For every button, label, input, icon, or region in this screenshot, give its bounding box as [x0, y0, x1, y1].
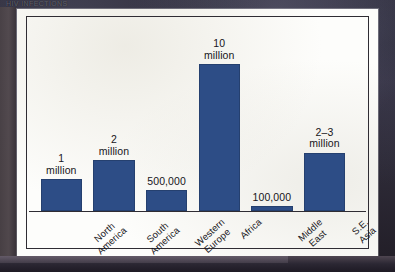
page-bottom-band: [0, 256, 395, 272]
bar-group: 2–3 million: [304, 23, 345, 211]
bar-value-label: 2 million: [99, 134, 129, 157]
x-axis-label: Middle East: [297, 217, 332, 252]
bar-plot-area: 1 million2 million500,00010 million100,0…: [39, 23, 358, 211]
bar-rect: [146, 190, 187, 211]
page-left-spine: [0, 7, 16, 259]
bar-value-label: 10 million: [204, 38, 234, 61]
x-axis-label: S.E. Asia: [350, 217, 378, 245]
bar-value-label: 500,000: [147, 176, 186, 188]
bar-value-label: 100,000: [253, 192, 292, 204]
x-axis-label: Western Europe: [193, 217, 234, 257]
page-caption: HIV INFECTIONS: [6, 0, 186, 8]
x-axis-label: North America: [88, 217, 128, 256]
chart-card: 1 million2 million500,00010 million100,0…: [17, 9, 378, 256]
x-axis-label: South America: [141, 217, 181, 256]
bar-value-label: 1 million: [46, 153, 76, 176]
bar-group: 500,000: [146, 23, 187, 211]
bar-group: 2 million: [93, 23, 134, 211]
bar-rect: [93, 160, 134, 211]
page-bottom-strip: [0, 256, 288, 263]
x-axis-baseline: [29, 211, 366, 212]
bar-rect: [304, 153, 345, 211]
bar-group: 10 million: [199, 23, 240, 211]
bar-group: 100,000: [251, 23, 292, 211]
x-axis-label: Africa: [238, 217, 264, 241]
bar-rect: [199, 64, 240, 211]
bar-rect: [41, 179, 82, 211]
x-axis-label-group: North AmericaSouth AmericaWestern Europe…: [39, 215, 358, 259]
chart-plot-frame: 1 million2 million500,00010 million100,0…: [26, 16, 369, 249]
bar-group: 1 million: [41, 23, 82, 211]
bar-value-label: 2–3 million: [309, 127, 339, 150]
